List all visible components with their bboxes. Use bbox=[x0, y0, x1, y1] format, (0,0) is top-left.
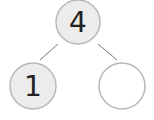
connector-line-left bbox=[40, 44, 58, 60]
part-right-value[interactable] bbox=[99, 63, 145, 109]
part-left-value: 1 bbox=[10, 63, 56, 109]
connector-line-right bbox=[98, 44, 117, 60]
whole-value: 4 bbox=[56, 0, 100, 44]
